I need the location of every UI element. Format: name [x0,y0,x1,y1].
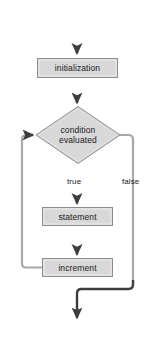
edge-exit-arrow [77,280,133,318]
flowchart-svg [0,0,156,337]
edge-label-true: true [67,177,81,186]
node-statement-shape [43,208,113,226]
edge-label-false: false [122,177,139,186]
edge-increment-loop-back [22,135,42,268]
node-initialization-shape [38,59,118,78]
edge-condition-false [120,135,133,284]
node-increment-shape [43,259,113,277]
node-condition-shape [36,107,120,164]
flowchart-canvas: initialization condition evaluated state… [0,0,156,337]
